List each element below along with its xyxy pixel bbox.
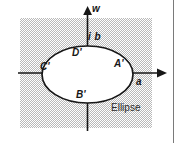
- curve-name-label: Ellipse: [111, 103, 140, 113]
- point-label-c-prime: C': [40, 62, 50, 72]
- ellipse-curve: [42, 46, 133, 103]
- y-intercept-label: i b: [88, 32, 101, 42]
- point-label-a-prime: A': [114, 59, 124, 69]
- ellipse-figure: w i b a A' B' C' D' Ellipse: [0, 0, 177, 143]
- point-label-d-prime: D': [72, 48, 82, 58]
- figure-vector-layer: [0, 0, 177, 143]
- point-label-b-prime: B': [76, 90, 86, 100]
- horizontal-axis-label: a: [136, 77, 142, 87]
- page-border-rule: [173, 0, 174, 143]
- vertical-axis-label: w: [92, 4, 100, 14]
